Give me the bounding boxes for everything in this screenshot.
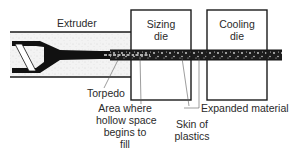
label-area-line3: begins to	[96, 126, 154, 138]
label-area-line1: Area where	[96, 102, 154, 114]
label-sizing-die-line1: Sizing	[131, 18, 191, 30]
label-sizing-die: Sizing die	[131, 18, 191, 42]
leader-area	[140, 56, 141, 104]
label-skin-line2: plastics	[170, 130, 214, 142]
label-area-line2: hollow space	[96, 114, 154, 126]
label-cooling-die: Cooling die	[207, 18, 267, 42]
label-cooling-die-line1: Cooling	[207, 18, 267, 30]
label-sizing-die-line2: die	[131, 30, 191, 42]
label-area-hollow-space: Area where hollow space begins to fill	[96, 102, 154, 150]
label-torpedo: Torpedo	[87, 87, 125, 99]
label-skin-of-plastics: Skin of plastics	[170, 118, 214, 142]
label-cooling-die-line2: die	[207, 30, 267, 42]
label-extruder: Extruder	[57, 17, 97, 29]
leader-skin	[182, 58, 189, 106]
label-expanded-material: Expanded material	[201, 102, 289, 114]
label-skin-line1: Skin of	[170, 118, 214, 130]
label-area-line4: fill	[96, 138, 154, 150]
